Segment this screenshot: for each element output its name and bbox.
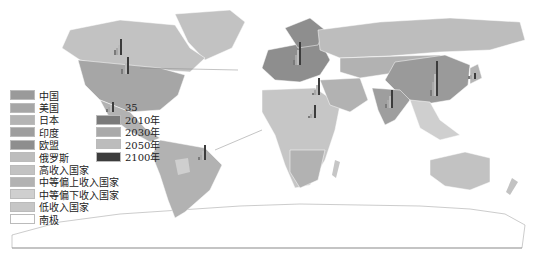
bar-scale-icon [96, 102, 121, 112]
legend-item: 2100年 [96, 151, 160, 163]
legend-bars: 35 2010年 2030年 2050年 2100年 [96, 101, 160, 163]
australia [430, 152, 490, 190]
southeast-asia [410, 100, 460, 140]
madagascar [332, 160, 340, 178]
legend-item: 南极 [10, 213, 119, 225]
legend-item: 低收入国家 [10, 201, 119, 213]
legend-item: 中国 [10, 89, 119, 101]
russia [318, 18, 525, 58]
south-america [152, 140, 222, 218]
new-zealand [506, 178, 518, 195]
